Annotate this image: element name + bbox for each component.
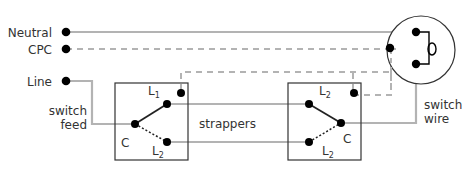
switch-2-earth-terminal [350,89,358,97]
line-label: Line [27,75,52,89]
line-terminal [62,77,71,86]
switch-1-l1-terminal [163,100,171,108]
cpc-terminal [62,45,71,54]
switch-2-l1-terminal [305,100,313,108]
rose-earth-terminal [386,44,394,52]
switch-1-l2-label: L2 [152,144,164,160]
switch-2-alt-path [309,123,341,142]
switch-1-lever [135,104,167,124]
switch-1-l1-label: L1 [148,84,160,100]
switch-wire-label-2: wire [424,112,449,126]
switch-2-l2-label: L2 [322,144,334,160]
cpc-label: CPC [28,43,52,57]
switch-wire-label-1: switch [424,98,462,112]
switch-feed-label-1: switch [49,104,87,118]
wiring-diagram: L1 C L2 L2 C L2 Neutral CPC [0,0,474,171]
switch-2-common-terminal [337,119,345,127]
ceiling-rose [386,16,455,95]
switch-feed-label-2: feed [60,118,87,132]
switch-2-c-label: C [343,132,351,146]
neutral-label: Neutral [8,26,52,40]
switch-2-l1-label: L2 [319,84,331,100]
switch-1-alt-path [135,124,167,142]
switch-1-common-terminal [131,120,139,128]
ceiling-rose-outline [387,16,455,84]
strappers-label: strappers [199,117,256,131]
switch-2-l2-terminal [305,138,313,146]
switch-1: L1 C L2 [115,83,188,160]
switch-2: L2 C L2 [288,83,361,160]
switch-1-c-label: C [121,136,129,150]
switch-1-l2-terminal [163,138,171,146]
neutral-terminal [62,28,71,37]
switch-2-lever [309,104,341,123]
switch-1-earth-terminal [177,89,185,97]
